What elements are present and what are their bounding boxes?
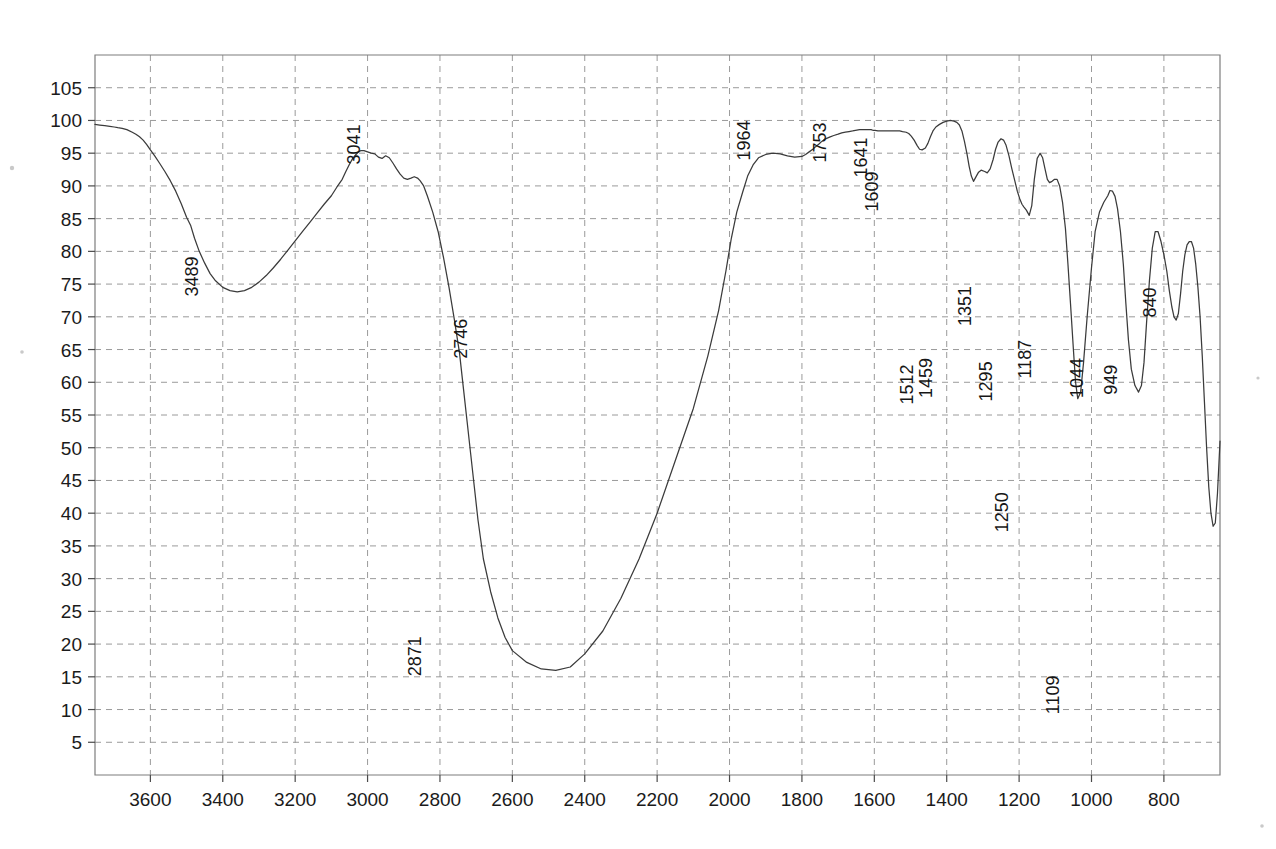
peak-annotation: 1512 — [897, 365, 917, 405]
peak-label-text: 840 — [1140, 288, 1160, 318]
peak-label-text: 1609 — [862, 171, 882, 211]
scan-artifact-speck — [10, 166, 14, 170]
peak-annotation: 1753 — [810, 122, 830, 162]
y-tick-label: 65 — [61, 340, 82, 361]
y-tick-label: 60 — [61, 372, 82, 393]
y-tick-label: 35 — [61, 536, 82, 557]
peak-label-text: 3041 — [344, 124, 364, 164]
peak-annotation: 1187 — [1015, 340, 1035, 379]
peak-label-text: 1512 — [897, 365, 917, 405]
peak-label-text: 1109 — [1043, 675, 1063, 714]
peak-annotation: 1109 — [1043, 675, 1063, 714]
peak-label-text: 1250 — [992, 492, 1012, 532]
peak-annotation: 2871 — [405, 636, 425, 676]
peak-annotation: 1044 — [1067, 358, 1087, 398]
peak-label-text: 949 — [1101, 365, 1121, 395]
ir-spectrum-figure: 5101520253035404550556065707580859095100… — [0, 0, 1276, 849]
x-tick-label: 2000 — [708, 789, 750, 810]
peak-annotation: 2746 — [451, 319, 471, 359]
spectrum-canvas: 5101520253035404550556065707580859095100… — [0, 0, 1276, 849]
y-tick-label: 70 — [61, 307, 82, 328]
peak-annotation: 1459 — [916, 358, 936, 398]
y-tick-label: 85 — [61, 209, 82, 230]
peak-label-text: 1187 — [1015, 340, 1035, 379]
peak-label-text: 1753 — [810, 122, 830, 162]
peak-annotation: 1609 — [862, 171, 882, 211]
peak-annotation: 1250 — [992, 492, 1012, 532]
x-tick-label: 1800 — [781, 789, 823, 810]
x-tick-label: 2800 — [419, 789, 461, 810]
peak-annotation: 3489 — [182, 257, 202, 297]
peak-annotation: 1351 — [955, 286, 975, 326]
peak-label-text: 1295 — [976, 361, 996, 401]
peak-label-text: 1351 — [955, 286, 975, 326]
figure-background — [0, 0, 1276, 849]
x-tick-label: 2400 — [564, 789, 606, 810]
y-tick-label: 40 — [61, 503, 82, 524]
y-tick-label: 10 — [61, 700, 82, 721]
y-tick-label: 55 — [61, 405, 82, 426]
scan-artifact-speck — [20, 350, 24, 354]
peak-annotation: 3041 — [344, 124, 364, 164]
x-tick-label: 1600 — [853, 789, 895, 810]
x-tick-label: 3000 — [346, 789, 388, 810]
peak-label-text: 3489 — [182, 257, 202, 297]
scan-artifact-speck — [1260, 824, 1264, 828]
x-tick-label: 3200 — [274, 789, 316, 810]
x-tick-label: 3400 — [202, 789, 244, 810]
y-tick-label: 100 — [50, 110, 82, 131]
peak-label-text: 2871 — [405, 636, 425, 676]
peak-label-text: 1044 — [1067, 358, 1087, 398]
y-tick-label: 75 — [61, 274, 82, 295]
x-tick-label: 1400 — [926, 789, 968, 810]
peak-annotation: 949 — [1101, 365, 1121, 395]
x-tick-label: 1000 — [1070, 789, 1112, 810]
y-tick-label: 95 — [61, 143, 82, 164]
x-tick-label: 3600 — [129, 789, 171, 810]
peak-label-text: 2746 — [451, 319, 471, 359]
peak-annotation: 840 — [1140, 288, 1160, 318]
x-tick-label: 2600 — [491, 789, 533, 810]
y-tick-label: 30 — [61, 569, 82, 590]
peak-annotation: 1295 — [976, 361, 996, 401]
y-tick-label: 20 — [61, 634, 82, 655]
x-tick-label: 800 — [1148, 789, 1180, 810]
y-tick-label: 50 — [61, 438, 82, 459]
scan-artifact-speck — [1256, 376, 1259, 379]
peak-label-text: 1964 — [734, 120, 754, 160]
y-tick-label: 5 — [71, 732, 82, 753]
x-tick-label: 1200 — [998, 789, 1040, 810]
y-tick-label: 90 — [61, 176, 82, 197]
y-tick-label: 15 — [61, 667, 82, 688]
y-tick-label: 105 — [50, 78, 82, 99]
y-tick-label: 25 — [61, 601, 82, 622]
y-tick-label: 45 — [61, 470, 82, 491]
peak-label-text: 1459 — [916, 358, 936, 398]
x-tick-label: 2200 — [636, 789, 678, 810]
peak-annotation: 1964 — [734, 120, 754, 160]
y-tick-label: 80 — [61, 241, 82, 262]
